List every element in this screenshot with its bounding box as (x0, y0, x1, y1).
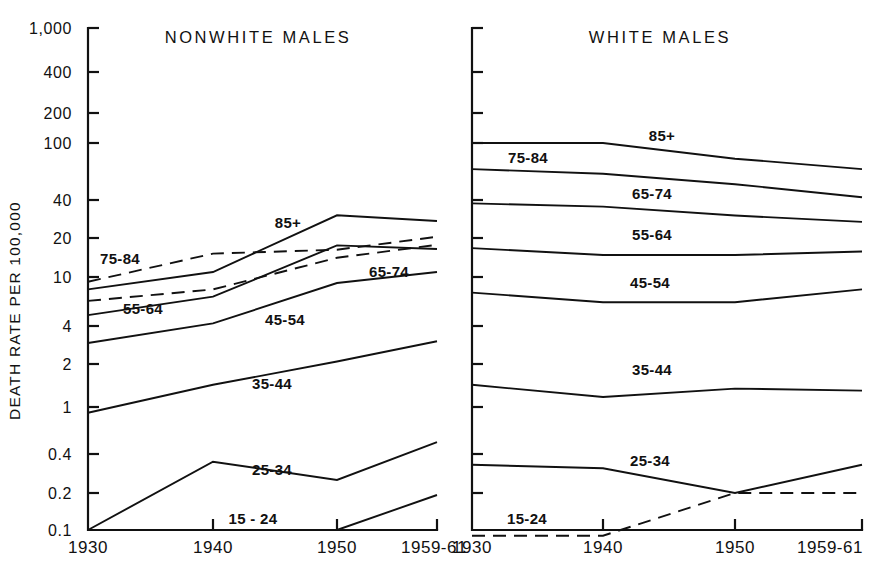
y-tick-label: 0.4 (48, 446, 72, 463)
series-label-35-44-nonwhite: 35-44 (252, 375, 292, 392)
y-tick-label: 400 (44, 64, 73, 81)
x-tick-label: 1930 (68, 538, 108, 557)
y-axis-title: DEATH RATE PER 100,000 (6, 201, 23, 420)
right-x-tick-labels: 1930 1940 1950 1959-61 (452, 538, 863, 557)
y-tick-label: 100 (44, 135, 73, 152)
series-label-55-64-nonwhite: 55-64 (123, 300, 163, 317)
series-line-25-34-white (472, 465, 862, 493)
panel-title-nonwhite-males: NONWHITE MALES (165, 28, 352, 46)
series-label-85plus-white: 85+ (649, 127, 675, 144)
series-label-25-34-white: 25-34 (630, 452, 670, 469)
left-panel-series-labels: 85+ 75-84 65-74 55-64 45-54 35-44 25-34 … (100, 214, 409, 527)
series-label-15-24-white: 15-24 (507, 510, 547, 527)
x-tick-label: 1959-61 (797, 538, 863, 557)
series-label-25-34-nonwhite: 25-34 (252, 461, 292, 478)
series-label-65-74-white: 65-74 (632, 185, 672, 202)
y-tick-labels: 1,000 400 200 100 40 20 10 4 2 1 0.4 0.2… (29, 20, 72, 539)
y-tick-label: 10 (53, 269, 72, 286)
series-label-75-84-white: 75-84 (508, 149, 548, 166)
y-tick-label: 1,000 (29, 20, 72, 37)
y-tick-label: 2 (63, 356, 73, 373)
series-line-65-74-white (472, 203, 862, 222)
panel-title-white-males: WHITE MALES (589, 28, 731, 46)
chart-figure: DEATH RATE PER 100,000 1,000 400 200 100… (0, 0, 876, 575)
series-label-75-84-nonwhite: 75-84 (100, 250, 140, 267)
y-tick-label: 0.2 (48, 485, 72, 502)
x-tick-label: 1940 (583, 538, 623, 557)
right-y-tick-marks (472, 28, 483, 493)
y-tick-label: 1 (63, 399, 73, 416)
series-label-85plus-nonwhite: 85+ (275, 214, 301, 231)
y-tick-label: 20 (53, 230, 72, 247)
series-line-55-64-white (472, 248, 862, 255)
chart-canvas: DEATH RATE PER 100,000 1,000 400 200 100… (0, 0, 876, 575)
x-tick-label: 1950 (715, 538, 755, 557)
series-label-45-54-white: 45-54 (630, 274, 670, 291)
left-y-tick-marks (88, 28, 99, 493)
series-label-35-44-white: 35-44 (632, 361, 672, 378)
y-tick-label: 40 (53, 192, 72, 209)
x-tick-label: 1940 (193, 538, 233, 557)
series-label-15-24-nonwhite: 15 - 24 (229, 510, 278, 527)
y-tick-label: 0.1 (48, 522, 72, 539)
x-tick-label: 1950 (317, 538, 357, 557)
series-line-45-54-white (472, 289, 862, 302)
series-label-45-54-nonwhite: 45-54 (265, 311, 305, 328)
series-line-35-44-white (472, 385, 862, 397)
right-x-tick-marks (603, 519, 862, 530)
left-x-tick-labels: 1930 1940 1950 1959-61 (68, 538, 467, 557)
y-tick-label: 4 (63, 318, 73, 335)
x-tick-label: 1930 (452, 538, 492, 557)
series-label-65-74-nonwhite: 65-74 (369, 263, 409, 280)
y-tick-label: 200 (44, 105, 73, 122)
series-label-55-64-white: 55-64 (632, 226, 672, 243)
